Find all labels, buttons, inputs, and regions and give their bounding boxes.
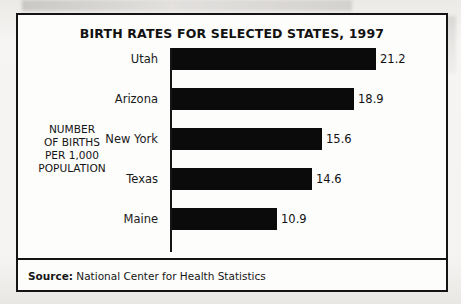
bar-row: Arizona 18.9 (18, 88, 446, 110)
scan-artifact-top (22, 0, 352, 11)
bar-value-label: 14.6 (316, 172, 342, 186)
bar-row: Texas 14.6 (18, 168, 446, 190)
bar-texas (172, 168, 312, 190)
plot-area: Utah 21.2 Arizona 18.9 New York 15.6 Tex… (18, 45, 446, 251)
bar-category-label: Texas (126, 172, 158, 186)
source-label: Source: (28, 270, 73, 282)
chart-title: BIRTH RATES FOR SELECTED STATES, 1997 (18, 26, 446, 41)
source-divider (18, 258, 446, 260)
bar-value-label: 10.9 (281, 212, 307, 226)
bar-category-label: New York (105, 132, 158, 146)
source-line: Source: National Center for Health Stati… (28, 270, 266, 282)
bar-utah (172, 48, 376, 70)
bar-new-york (172, 128, 322, 150)
bar-value-label: 18.9 (358, 92, 384, 106)
bar-category-label: Arizona (115, 92, 158, 106)
bar-maine (172, 208, 277, 230)
bar-row: New York 15.6 (18, 128, 446, 150)
bar-value-label: 21.2 (380, 52, 406, 66)
bar-arizona (172, 88, 354, 110)
bar-category-label: Maine (123, 212, 158, 226)
bar-category-label: Utah (131, 52, 158, 66)
bar-row: Maine 10.9 (18, 208, 446, 230)
chart-frame: BIRTH RATES FOR SELECTED STATES, 1997 NU… (16, 13, 448, 292)
bar-row: Utah 21.2 (18, 48, 446, 70)
bar-value-label: 15.6 (326, 132, 352, 146)
source-text: National Center for Health Statistics (76, 270, 265, 282)
